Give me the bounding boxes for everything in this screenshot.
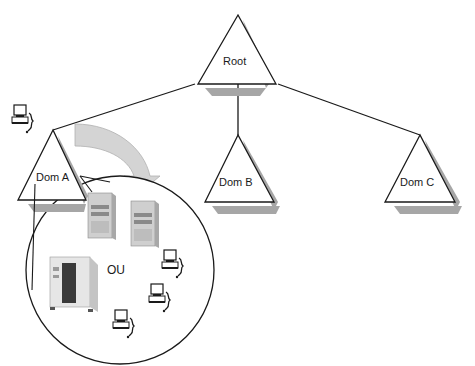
edge-root-dom-c xyxy=(278,84,420,135)
dom-b-triangle[interactable] xyxy=(205,135,280,214)
ou-label: OU xyxy=(107,263,125,277)
tower-server-icon xyxy=(131,201,159,248)
edge-root-dom-a xyxy=(53,84,195,130)
tower-server-icon xyxy=(88,193,116,240)
dom-c-label: Dom C xyxy=(400,176,434,188)
workstation-icon xyxy=(12,105,33,133)
dom-a-label: Dom A xyxy=(36,171,69,183)
rack-server-icon xyxy=(50,257,98,312)
dom-c-triangle[interactable] xyxy=(385,135,462,214)
root-label: Root xyxy=(223,55,246,67)
dom-b-label: Dom B xyxy=(219,176,253,188)
